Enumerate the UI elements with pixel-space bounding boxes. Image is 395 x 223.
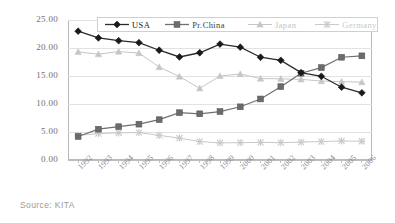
diamond-marker — [176, 54, 183, 61]
cross-marker — [135, 129, 142, 136]
square-marker — [174, 22, 180, 28]
square-marker — [177, 110, 183, 116]
diamond-marker — [318, 73, 325, 80]
diamond-marker — [217, 41, 224, 48]
square-marker — [318, 65, 324, 71]
square-marker — [278, 84, 284, 90]
diamond-marker — [277, 57, 284, 64]
diamond-marker — [237, 44, 244, 51]
legend-label: Pr.China — [192, 20, 225, 30]
y-axis-tick-label: 20.00 — [0, 42, 58, 52]
legend-label: USA — [132, 20, 150, 30]
triangle-marker — [75, 49, 81, 55]
cross-marker — [358, 138, 365, 145]
chart-figure: 25.0020.0015.0010.005.000.00 19921993199… — [0, 0, 395, 223]
diamond-marker — [114, 21, 121, 28]
square-marker — [164, 19, 190, 30]
diamond-marker — [95, 35, 102, 42]
cross-marker — [115, 129, 122, 136]
cross-marker — [338, 137, 345, 144]
cross-marker — [176, 135, 183, 142]
legend-item-usa[interactable]: USA — [104, 19, 150, 30]
diamond-marker — [104, 19, 130, 30]
cross-marker — [314, 19, 340, 30]
diamond-marker — [136, 39, 143, 46]
cross-marker — [216, 139, 223, 146]
diamond-marker — [338, 84, 345, 91]
cross-marker — [156, 132, 163, 139]
y-axis-tick-label: 10.00 — [0, 98, 58, 108]
chart-canvas — [0, 0, 395, 223]
legend-label: Germany — [342, 20, 376, 30]
square-marker — [237, 104, 243, 110]
y-axis-tick-label: 5.00 — [0, 126, 58, 136]
cross-marker — [257, 139, 264, 146]
square-marker — [116, 124, 122, 130]
diamond-marker — [75, 28, 82, 35]
series-pr-china — [75, 53, 365, 139]
y-axis-tick-label: 0.00 — [0, 154, 58, 164]
square-marker — [96, 126, 102, 132]
y-axis-tick-label: 25.00 — [0, 14, 58, 24]
triangle-marker — [247, 19, 273, 30]
series-usa — [75, 28, 366, 96]
y-axis-tick-label: 15.00 — [0, 70, 58, 80]
cross-marker — [297, 138, 304, 145]
cross-marker — [277, 139, 284, 146]
cross-marker — [324, 21, 331, 28]
cross-marker — [318, 138, 325, 145]
source-note: Source: KITA — [20, 200, 75, 210]
triangle-marker — [237, 71, 243, 77]
cross-marker — [237, 139, 244, 146]
square-marker — [258, 96, 264, 102]
triangle-marker — [156, 64, 162, 70]
triangle-marker — [197, 85, 203, 91]
square-marker — [359, 53, 365, 59]
legend-label: Japan — [275, 20, 296, 30]
diamond-marker — [115, 37, 122, 44]
cross-marker — [196, 138, 203, 145]
diamond-marker — [358, 89, 365, 96]
legend-item-pr-china[interactable]: Pr.China — [164, 19, 225, 30]
square-marker — [75, 134, 81, 140]
legend-item-germany[interactable]: Germany — [314, 19, 376, 30]
square-marker — [339, 54, 345, 60]
chart-legend: USAPr.ChinaJapanGermany — [97, 17, 378, 32]
square-marker — [136, 121, 142, 127]
diamond-marker — [257, 54, 264, 61]
square-marker — [156, 117, 162, 123]
square-marker — [197, 111, 203, 117]
diamond-marker — [196, 49, 203, 56]
square-marker — [217, 109, 223, 115]
legend-item-japan[interactable]: Japan — [247, 19, 296, 30]
